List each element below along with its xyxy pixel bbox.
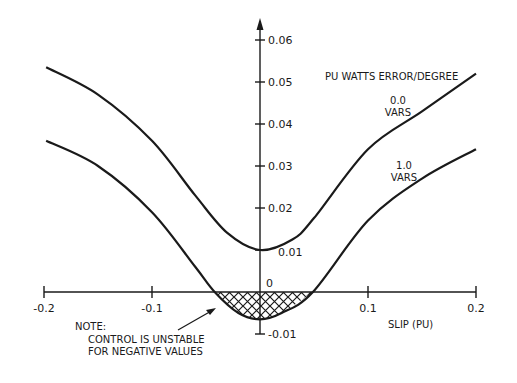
y-tick-label: 0.05 (268, 76, 293, 89)
note-arrow-head-icon (206, 308, 216, 315)
series-label-1vars-line1: 1.0 (396, 160, 412, 171)
series-label-1vars-line2: VARS (391, 172, 417, 183)
x-tick-label: 0.1 (359, 302, 377, 315)
y-tick-label: -0.01 (268, 328, 296, 341)
y-tick-label: 0.02 (268, 202, 293, 215)
y-axis-label: PU WATTS ERROR/DEGREE (325, 71, 458, 82)
series-line (46, 67, 476, 250)
note-title: NOTE: (75, 321, 106, 332)
y-tick-label: 0 (266, 277, 273, 290)
x-tick-label: 0.2 (467, 302, 485, 315)
y-tick-label: 0.06 (268, 34, 293, 47)
x-tick-label: -0.2 (33, 302, 54, 315)
note-arrow (178, 310, 213, 330)
y-tick-label: 0.03 (268, 160, 293, 173)
chart-container: -0.2-0.10.10.20.060.050.040.030.020.010-… (0, 0, 517, 383)
x-tick-label: -0.1 (141, 302, 162, 315)
note-line-2: FOR NEGATIVE VALUES (88, 346, 203, 357)
series-lines (46, 67, 476, 319)
y-axis-arrow-icon (257, 18, 264, 30)
x-axis-label: SLIP (PU) (388, 319, 433, 330)
y-tick-label: 0.04 (268, 118, 293, 131)
note-line-1: CONTROL IS UNSTABLE (88, 334, 205, 345)
y-tick-label: 0.01 (278, 246, 303, 259)
series-label-0vars-line1: 0.0 (390, 95, 406, 106)
chart-svg: -0.2-0.10.10.20.060.050.040.030.020.010-… (0, 0, 517, 383)
series-label-0vars-line2: VARS (385, 107, 411, 118)
